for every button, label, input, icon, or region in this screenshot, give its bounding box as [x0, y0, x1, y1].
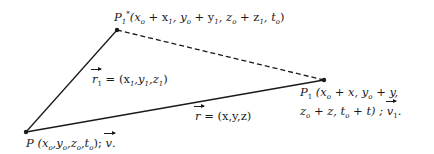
label-p1-line1: P1 (xo + x, yo + y, — [300, 87, 398, 99]
label-p: P (xo,yo,zo,to); v. — [26, 138, 116, 150]
label-p1star: P1*(xo + x1, yo + y1, zo + z1, to) — [114, 12, 285, 24]
label-r: r = (x,y,z) — [195, 111, 251, 123]
label-r1: r1 = (x1,y1,z1) — [92, 74, 168, 86]
point-p1star — [115, 28, 119, 32]
vector-arrow-icon: v — [105, 138, 112, 150]
edge-p-to-p1 — [26, 80, 324, 132]
vector-arrow-icon: r — [92, 74, 98, 86]
point-p1 — [322, 78, 326, 82]
label-p1-line2: zo + z, to + t) ; v1. — [300, 106, 401, 118]
vector-arrow-icon: r — [195, 111, 201, 123]
vector-arrow-icon: v — [387, 106, 394, 118]
point-p — [24, 130, 28, 134]
